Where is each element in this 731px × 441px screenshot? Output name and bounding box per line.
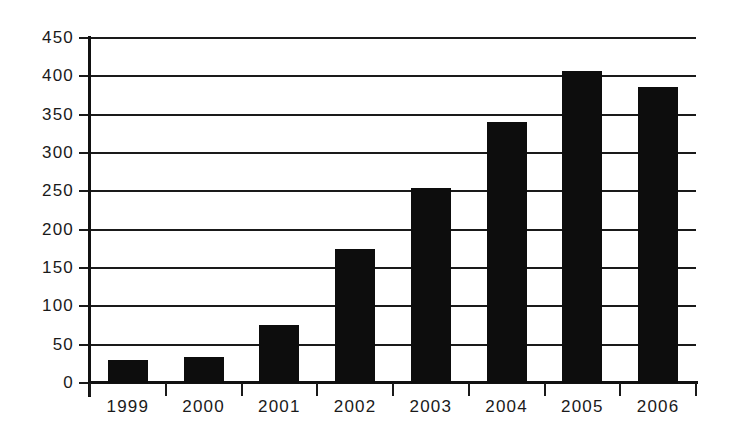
- bar-2005: [562, 71, 602, 383]
- x-axis-label: 2004: [469, 398, 545, 415]
- y-axis-label: 100: [8, 297, 74, 314]
- x-tick-6: [544, 383, 546, 396]
- bar-2003: [411, 188, 451, 383]
- x-tick-0: [89, 383, 91, 396]
- bar-chart: 050100150200250300350400450 199920002001…: [0, 0, 731, 441]
- x-axis-label: 2006: [620, 398, 696, 415]
- bar-2002: [335, 249, 375, 383]
- x-axis-label: 1999: [90, 398, 166, 415]
- bar-2004: [487, 122, 527, 383]
- x-tick-7: [619, 383, 621, 396]
- x-axis-label: 2005: [545, 398, 621, 415]
- bar-1999: [108, 360, 148, 383]
- y-axis-label: 350: [8, 106, 74, 123]
- y-axis-label: 400: [8, 67, 74, 84]
- bar-2001: [259, 325, 299, 383]
- y-axis-label: 300: [8, 144, 74, 161]
- x-axis-label: 2003: [393, 398, 469, 415]
- x-tick-2: [241, 383, 243, 396]
- bar-2000: [184, 357, 224, 383]
- x-tick-8: [695, 383, 697, 396]
- y-axis-label: 250: [8, 182, 74, 199]
- x-axis-label: 2000: [166, 398, 242, 415]
- x-tick-1: [165, 383, 167, 396]
- y-axis-label: 0: [8, 374, 74, 391]
- x-tick-4: [392, 383, 394, 396]
- x-tick-3: [316, 383, 318, 396]
- x-axis-label: 2002: [317, 398, 393, 415]
- x-tick-5: [468, 383, 470, 396]
- y-axis-label: 200: [8, 221, 74, 238]
- y-axis-label: 150: [8, 259, 74, 276]
- y-axis-label: 450: [8, 29, 74, 46]
- bar-2006: [638, 87, 678, 383]
- bar-series: [90, 38, 696, 383]
- x-axis-label: 2001: [242, 398, 318, 415]
- y-axis-label: 50: [8, 336, 74, 353]
- chart-screenshot: 050100150200250300350400450 199920002001…: [0, 0, 731, 441]
